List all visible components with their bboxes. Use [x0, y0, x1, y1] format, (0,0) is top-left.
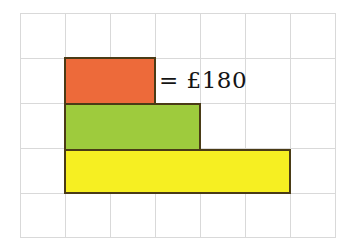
- bar-orange: [64, 57, 156, 105]
- bar-model-figure: = £180: [0, 0, 353, 248]
- bar-green: [64, 103, 201, 151]
- grid-line-vertical: [245, 13, 246, 238]
- bar-yellow: [64, 149, 291, 194]
- grid-line-vertical: [335, 13, 336, 238]
- bar-value-label: = £180: [159, 66, 247, 94]
- grid-line-vertical: [20, 13, 21, 238]
- grid-line-horizontal: [20, 13, 336, 14]
- grid-line-vertical: [290, 13, 291, 238]
- grid-line-horizontal: [20, 237, 336, 238]
